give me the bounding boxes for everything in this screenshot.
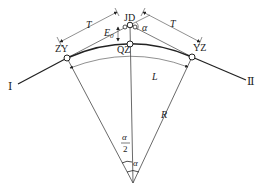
label-half-angle-num: α: [122, 132, 127, 142]
label-center-angle: α: [133, 158, 138, 168]
radius-yz: [133, 57, 192, 183]
point-zy: [64, 55, 70, 61]
label-direction-out: Ⅱ: [247, 75, 254, 87]
radius-zy: [67, 58, 133, 183]
point-yz: [189, 54, 195, 60]
diagram-svg: ZY JD QZ YZ T T E0 α L R α 2 α Ⅰ Ⅱ: [0, 0, 262, 188]
label-t-right: T: [170, 18, 177, 29]
point-jd: [127, 22, 133, 28]
half-angle-arc: [122, 161, 132, 163]
label-zy: ZY: [55, 43, 68, 54]
label-r: R: [160, 109, 167, 120]
label-l: L: [151, 71, 158, 82]
label-half-angle-den: 2: [123, 144, 128, 154]
l-arc-dimension: [70, 56, 188, 68]
curve-diagram: ZY JD QZ YZ T T E0 α L R α 2 α Ⅰ Ⅱ: [0, 0, 262, 188]
outgoing-tangent-line: [192, 57, 246, 80]
incoming-tangent-line: [18, 58, 67, 84]
label-qz: QZ: [117, 44, 130, 55]
tangent-right-to-jd: [130, 25, 192, 57]
label-direction-in: Ⅰ: [8, 80, 12, 92]
label-t-left: T: [86, 19, 93, 30]
point-jd-3: [133, 25, 137, 29]
label-yz: YZ: [193, 42, 206, 53]
label-jd: JD: [124, 12, 135, 23]
label-alpha-jd: α: [142, 22, 148, 33]
point-jd-2: [123, 25, 127, 29]
